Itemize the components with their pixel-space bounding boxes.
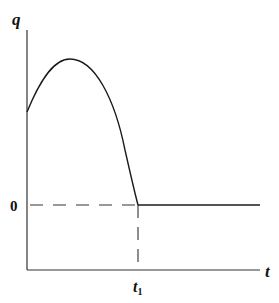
q-curve <box>27 59 138 205</box>
y-axis-label: q <box>12 10 21 29</box>
t1-label: t1 <box>133 278 142 297</box>
x-axis-label: t <box>265 262 271 281</box>
t1-label-subscript: 1 <box>137 286 142 297</box>
q-vs-t-diagram: q 0 t t1 <box>0 0 279 303</box>
zero-label: 0 <box>10 198 18 214</box>
